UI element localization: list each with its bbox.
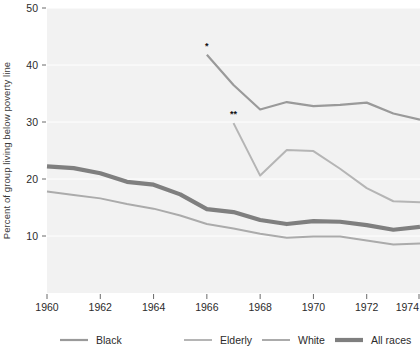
legend-label-elderly: Elderly: [220, 334, 253, 346]
y-tick-label-20: 20: [26, 173, 38, 185]
y-tick-label-50: 50: [26, 2, 38, 14]
x-tick-label-1970: 1970: [302, 301, 326, 313]
poverty-line-chart: Percent of group living below poverty li…: [0, 0, 420, 353]
legend-label-black: Black: [96, 334, 122, 346]
x-tick-label-1972: 1972: [355, 301, 379, 313]
x-tick-label-1960: 1960: [35, 301, 59, 313]
x-tick-label-1964: 1964: [142, 301, 166, 313]
plot-background: [47, 8, 420, 293]
y-tick-label-30: 30: [26, 116, 38, 128]
legend-label-white: White: [298, 334, 325, 346]
x-tick-label-1974: 1974: [396, 301, 420, 313]
y-axis-label-text: Percent of group living below poverty li…: [2, 61, 13, 238]
y-axis-label: Percent of group living below poverty li…: [0, 0, 16, 300]
x-tick-label-1968: 1968: [248, 301, 272, 313]
chart-canvas: 1020304050 19601962196419661968197019721…: [0, 0, 420, 353]
y-tick-label-40: 40: [26, 59, 38, 71]
legend-label-all-races: All races: [371, 334, 411, 346]
x-tick-label-1962: 1962: [89, 301, 113, 313]
chart-legend: BlackElderlyWhiteAll races: [60, 334, 411, 346]
y-tick-label-10: 10: [26, 230, 38, 242]
annotation-black: *: [205, 41, 209, 51]
x-axis-ticks: 19601962196419661968197019721974: [35, 294, 419, 313]
y-axis-ticks: 1020304050: [26, 2, 46, 242]
x-tick-label-1966: 1966: [195, 301, 219, 313]
annotation-elderly: **: [230, 109, 238, 119]
